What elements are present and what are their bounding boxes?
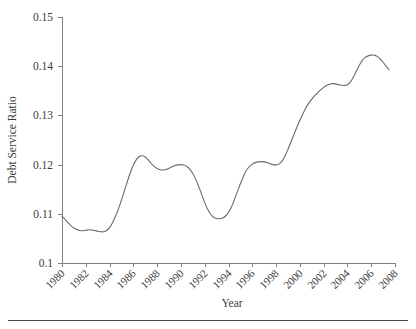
x-axis-tick-label: 2002 (305, 267, 329, 291)
x-axis-tick-label: 1996 (233, 267, 257, 291)
y-axis-ticks (58, 18, 62, 264)
x-axis-tick-label: 2008 (376, 267, 400, 291)
x-axis-tick-label: 1982 (67, 267, 91, 291)
x-axis-tick-label: 1994 (210, 267, 234, 291)
x-axis-tick-label: 1984 (91, 267, 115, 291)
x-axis-tick-label: 1990 (162, 267, 186, 291)
y-axis-tick-label: 0.11 (33, 208, 53, 220)
y-axis-tick-labels: 0.150.140.130.120.110.1 (33, 11, 53, 269)
y-axis-tick-label: 0.15 (33, 11, 53, 23)
y-axis-title: Debt Service Ratio (6, 96, 18, 184)
x-axis-tick-label: 1988 (138, 267, 162, 291)
x-axis-tick-label: 1998 (257, 267, 281, 291)
y-axis-tick-label: 0.12 (33, 159, 53, 171)
debt-service-ratio-series-line (62, 55, 389, 232)
chart-figure: 0.150.140.130.120.110.1 1980198219841986… (0, 0, 416, 329)
x-axis-tick-label: 1980 (43, 267, 67, 291)
x-axis-tick-label: 2000 (281, 267, 305, 291)
y-axis-tick-label: 0.13 (33, 109, 53, 121)
x-axis-tick-label: 2004 (328, 267, 352, 291)
debt-service-ratio-line-chart: 0.150.140.130.120.110.1 1980198219841986… (0, 0, 416, 329)
x-axis-tick-labels: 1980198219841986198819901992199419961998… (43, 267, 400, 291)
x-axis-tick-label: 1986 (114, 267, 138, 291)
y-axis-tick-label: 0.1 (39, 257, 54, 269)
x-axis-title: Year (221, 297, 242, 309)
y-axis-tick-label: 0.14 (33, 60, 53, 72)
x-axis-tick-label: 2006 (352, 267, 376, 291)
x-axis-tick-label: 1992 (186, 267, 210, 291)
